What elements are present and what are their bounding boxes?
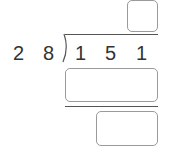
- product-input-box[interactable]: [65, 68, 158, 102]
- quotient-input-box[interactable]: [127, 0, 158, 32]
- divisor-digit-tens: 2: [13, 43, 24, 63]
- dividend-digit-tens: 5: [105, 43, 116, 63]
- division-bar: [65, 34, 158, 35]
- division-bracket-icon: [61, 33, 69, 63]
- dividend-digit-hundreds: 1: [75, 43, 86, 63]
- remainder-input-box[interactable]: [96, 111, 158, 146]
- dividend-digit-ones: 1: [136, 43, 147, 63]
- divisor-digit-ones: 8: [43, 43, 54, 63]
- subtraction-line: [65, 106, 158, 107]
